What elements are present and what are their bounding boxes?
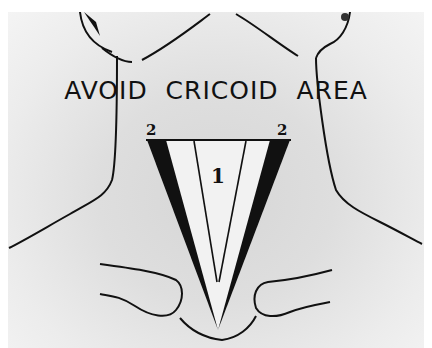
right-ear-shadow [341,13,349,21]
caption-avoid-cricoid-area: AVOID CRICOID AREA [0,76,432,105]
left-clavicle [100,264,182,316]
zone-label-left-2: 2 [146,121,156,139]
right-clavicle [255,270,333,316]
left-ear-outline [80,12,112,52]
zone-label-center-1: 1 [211,164,225,188]
chin-right-line [236,14,298,56]
chin-left-line [142,14,210,60]
zone-label-right-2: 2 [277,121,287,139]
